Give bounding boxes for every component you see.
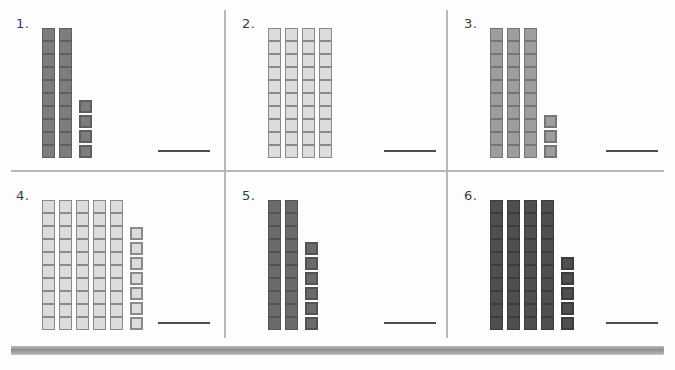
unit-cube xyxy=(305,302,318,315)
answer-blank-5[interactable] xyxy=(384,322,436,324)
unit-cube xyxy=(93,239,106,252)
unit-cube xyxy=(79,145,92,158)
unit-cube xyxy=(319,119,332,132)
unit-cube xyxy=(93,317,106,330)
tens-rod xyxy=(42,200,55,330)
unit-cube xyxy=(507,278,520,291)
unit-cube xyxy=(130,287,143,300)
answer-blank-1[interactable] xyxy=(158,150,210,152)
unit-cube xyxy=(561,302,574,315)
unit-cube xyxy=(268,226,281,239)
unit-cube xyxy=(79,130,92,143)
tens-rod xyxy=(285,28,298,158)
ones-column xyxy=(130,227,143,330)
unit-cube xyxy=(524,239,537,252)
unit-cube xyxy=(541,291,554,304)
unit-cube xyxy=(507,265,520,278)
unit-cube xyxy=(524,106,537,119)
unit-cube xyxy=(561,272,574,285)
problem-panel-4[interactable]: 4. xyxy=(0,172,224,342)
unit-cube xyxy=(93,226,106,239)
unit-cube xyxy=(490,119,503,132)
unit-cube xyxy=(79,115,92,128)
unit-cube xyxy=(110,278,123,291)
unit-cube xyxy=(110,252,123,265)
base-ten-blocks-3 xyxy=(490,28,557,158)
unit-cube xyxy=(93,200,106,213)
unit-cube xyxy=(490,145,503,158)
unit-cube xyxy=(42,119,55,132)
unit-cube xyxy=(302,145,315,158)
problem-panel-3[interactable]: 3. xyxy=(448,0,672,170)
unit-cube xyxy=(268,252,281,265)
unit-cube xyxy=(561,287,574,300)
unit-cube xyxy=(507,252,520,265)
problem-number-3: 3. xyxy=(464,16,477,31)
unit-cube xyxy=(59,80,72,93)
unit-cube xyxy=(93,213,106,226)
unit-cube xyxy=(110,200,123,213)
answer-blank-4[interactable] xyxy=(158,322,210,324)
tens-rod xyxy=(285,200,298,330)
unit-cube xyxy=(541,278,554,291)
unit-cube xyxy=(268,28,281,41)
unit-cube xyxy=(305,257,318,270)
unit-cube xyxy=(490,28,503,41)
unit-cube xyxy=(490,291,503,304)
unit-cube xyxy=(42,41,55,54)
unit-cube xyxy=(285,278,298,291)
base-ten-blocks-4 xyxy=(42,200,143,330)
unit-cube xyxy=(524,54,537,67)
unit-cube xyxy=(59,226,72,239)
unit-cube xyxy=(507,304,520,317)
unit-cube xyxy=(541,317,554,330)
unit-cube xyxy=(490,226,503,239)
unit-cube xyxy=(524,119,537,132)
unit-cube xyxy=(507,145,520,158)
unit-cube xyxy=(42,54,55,67)
unit-cube xyxy=(319,145,332,158)
unit-cube xyxy=(507,317,520,330)
unit-cube xyxy=(524,145,537,158)
answer-blank-2[interactable] xyxy=(384,150,436,152)
problem-panel-5[interactable]: 5. xyxy=(226,172,450,342)
unit-cube xyxy=(541,304,554,317)
unit-cube xyxy=(59,28,72,41)
unit-cube xyxy=(42,145,55,158)
problem-panel-1[interactable]: 1. xyxy=(0,0,224,170)
problem-panel-2[interactable]: 2. xyxy=(226,0,450,170)
tens-rod xyxy=(76,200,89,330)
unit-cube xyxy=(507,80,520,93)
worksheet-canvas: 1. 2. 3. 4. 5. 6. xyxy=(0,0,675,370)
bottom-decorative-bar xyxy=(11,346,664,355)
unit-cube xyxy=(524,278,537,291)
unit-cube xyxy=(268,317,281,330)
ones-column xyxy=(305,242,318,330)
unit-cube xyxy=(302,132,315,145)
unit-cube xyxy=(507,291,520,304)
unit-cube xyxy=(285,239,298,252)
answer-blank-6[interactable] xyxy=(606,322,658,324)
tens-rod xyxy=(59,28,72,158)
unit-cube xyxy=(76,304,89,317)
unit-cube xyxy=(285,67,298,80)
unit-cube xyxy=(268,67,281,80)
problem-number-2: 2. xyxy=(242,16,255,31)
unit-cube xyxy=(507,213,520,226)
unit-cube xyxy=(524,265,537,278)
unit-cube xyxy=(305,287,318,300)
unit-cube xyxy=(302,67,315,80)
problem-number-6: 6. xyxy=(464,188,477,203)
unit-cube xyxy=(490,239,503,252)
unit-cube xyxy=(507,54,520,67)
problem-panel-6[interactable]: 6. xyxy=(448,172,672,342)
unit-cube xyxy=(507,67,520,80)
unit-cube xyxy=(285,132,298,145)
unit-cube xyxy=(561,257,574,270)
unit-cube xyxy=(59,265,72,278)
unit-cube xyxy=(507,239,520,252)
unit-cube xyxy=(93,291,106,304)
unit-cube xyxy=(59,41,72,54)
answer-blank-3[interactable] xyxy=(606,150,658,152)
unit-cube xyxy=(524,226,537,239)
